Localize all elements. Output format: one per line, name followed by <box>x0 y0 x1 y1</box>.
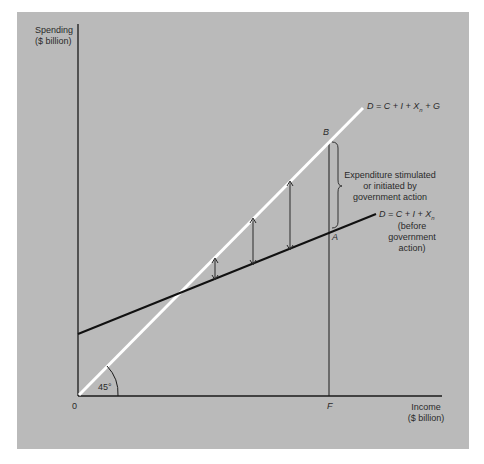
point-label-B: B <box>323 127 329 138</box>
double-arrow-2 <box>250 218 256 265</box>
y-axis-label-line1: Spending <box>35 25 73 36</box>
note-line2: government <box>382 232 442 243</box>
total-demand-suffix: + G <box>423 101 440 111</box>
total-demand-label: D = C + I + Xn + G <box>367 101 440 116</box>
y-axis-label: Spending ($ billion) <box>35 25 73 47</box>
total-demand-eq: D = C + I + X <box>367 101 419 111</box>
brace-annotation: Expenditure stimulated or initiated by g… <box>340 170 440 203</box>
demand-before-subscript: n <box>431 215 434 221</box>
point-label-A: A <box>332 232 338 243</box>
origin-label: 0 <box>72 401 77 412</box>
x-axis-label: Income ($ billion) <box>400 402 452 424</box>
point-label-F: F <box>327 401 333 412</box>
total-demand-line <box>79 108 363 395</box>
x-axis-label-line2: ($ billion) <box>400 413 452 424</box>
note-line1: (before <box>382 221 442 232</box>
note-line3: action) <box>382 243 442 254</box>
demand-before-eq: D = C + I + X <box>379 209 431 219</box>
demand-before-note: (before government action) <box>382 221 442 254</box>
y-axis-label-line2: ($ billion) <box>35 36 73 47</box>
double-arrow-1 <box>212 258 218 280</box>
annotation-line1: Expenditure stimulated <box>340 170 440 181</box>
double-arrow-3 <box>287 181 293 250</box>
angle-label: 45° <box>98 382 112 393</box>
annotation-line2: or initiated by <box>340 181 440 192</box>
annotation-line3: government action <box>340 192 440 203</box>
x-axis-label-line1: Income <box>400 402 452 413</box>
